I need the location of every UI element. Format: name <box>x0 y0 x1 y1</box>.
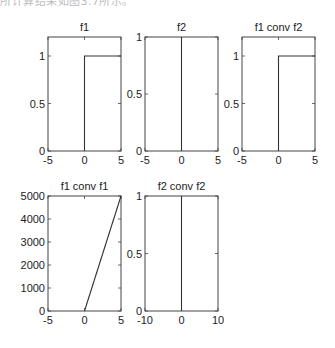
y-tick-label: 2000 <box>21 259 45 271</box>
y-tick-label: 1000 <box>21 282 45 294</box>
y-tick-label: 1 <box>136 190 142 202</box>
subplot-title: f1 conv f1 <box>61 180 109 192</box>
subplot-title: f2 <box>177 21 186 33</box>
subplot-title: f1 <box>80 21 89 33</box>
x-tick-label: 0 <box>178 314 184 326</box>
figure-canvas: f1-50500.51f2-50500.51f1 conv f2-50500.5… <box>0 0 335 348</box>
y-tick-label: 0 <box>39 305 45 317</box>
x-tick-label: 0 <box>81 154 87 166</box>
subplot-f1-conv-f1: f1 conv f1-505010002000300040005000 <box>21 180 125 326</box>
subplot-f2-conv-f2: f2 conv f2-1001000.51 <box>127 180 224 326</box>
y-tick-label: 0.5 <box>224 98 239 110</box>
y-tick-label: 1 <box>233 50 239 62</box>
subplot-title: f1 conv f2 <box>255 21 303 33</box>
y-tick-label: 0 <box>136 145 142 157</box>
x-tick-label: 0 <box>275 154 281 166</box>
y-tick-label: 0 <box>233 145 239 157</box>
x-tick-label: 10 <box>212 314 224 326</box>
axes-box <box>48 196 121 311</box>
x-tick-label: 5 <box>118 314 124 326</box>
y-tick-label: 0 <box>136 305 142 317</box>
x-tick-label: 5 <box>215 154 221 166</box>
subplot-f1: f1-50500.51 <box>30 21 124 166</box>
y-tick-label: 0.5 <box>127 248 142 260</box>
y-tick-label: 4000 <box>21 213 45 225</box>
y-tick-label: 1 <box>39 50 45 62</box>
y-tick-label: 0.5 <box>127 88 142 100</box>
y-tick-label: 5000 <box>21 190 45 202</box>
x-tick-label: 5 <box>118 154 124 166</box>
subplot-title: f2 conv f2 <box>158 180 206 192</box>
x-tick-label: 0 <box>81 314 87 326</box>
y-tick-label: 0 <box>39 145 45 157</box>
subplot-f2: f2-50500.51 <box>127 21 221 166</box>
subplot-f1-conv-f2: f1 conv f2-50500.51 <box>224 21 318 166</box>
y-tick-label: 1 <box>136 31 142 43</box>
y-tick-label: 3000 <box>21 236 45 248</box>
x-tick-label: 5 <box>312 154 318 166</box>
x-tick-label: 0 <box>178 154 184 166</box>
y-tick-label: 0.5 <box>30 98 45 110</box>
